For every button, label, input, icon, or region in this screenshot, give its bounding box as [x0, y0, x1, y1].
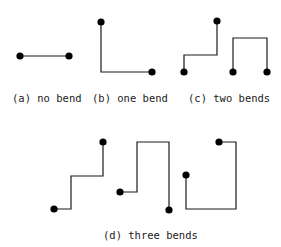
panel-c [180, 17, 270, 75]
wire-path [120, 142, 169, 210]
terminal-dot-icon [65, 52, 72, 59]
wire-path [54, 142, 103, 209]
panel-b [97, 18, 155, 75]
terminal-dot-icon [50, 205, 57, 212]
terminal-dot-icon [99, 138, 106, 145]
panel-a [16, 52, 72, 59]
terminal-dot-icon [263, 68, 270, 75]
terminal-dot-icon [148, 68, 155, 75]
caption-one-bend: (b) one bend [92, 92, 168, 104]
terminal-dot-icon [16, 52, 23, 59]
wire-path [233, 38, 267, 72]
terminal-dot-icon [165, 206, 172, 213]
panel-d [50, 138, 236, 213]
terminal-dot-icon [180, 68, 187, 75]
caption-three-bends: (d) three bends [103, 229, 198, 241]
wire-path [186, 142, 236, 209]
wire-paths-drawing [0, 0, 281, 247]
terminal-dot-icon [229, 68, 236, 75]
caption-two-bends: (c) two bends [188, 92, 270, 104]
wire-path [184, 21, 217, 72]
terminal-dot-icon [215, 138, 222, 145]
terminal-dot-icon [213, 17, 220, 24]
terminal-dot-icon [116, 188, 123, 195]
bends-diagram: (a) no bend (b) one bend (c) two bends (… [0, 0, 281, 247]
caption-no-bend: (a) no bend [12, 92, 82, 104]
terminal-dot-icon [97, 18, 104, 25]
terminal-dot-icon [182, 171, 189, 178]
wire-path [101, 22, 152, 72]
